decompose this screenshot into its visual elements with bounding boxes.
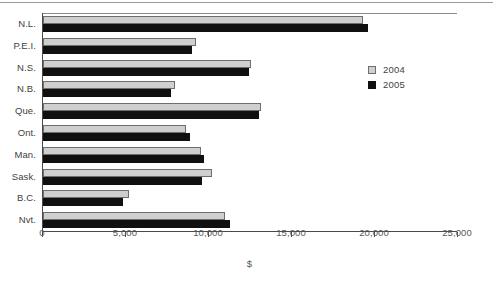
bar-2005-ns <box>43 68 249 76</box>
x-axis-tick-label: 25,000 <box>442 227 472 238</box>
legend-swatch-2005-icon <box>368 81 376 89</box>
category-label-nl: N.L. <box>0 18 36 29</box>
x-axis-tick-label: 5,000 <box>113 227 137 238</box>
bar-2005-que <box>43 111 259 119</box>
bar-2004-ns <box>43 60 251 68</box>
plot-area <box>42 13 457 231</box>
bar-2004-nvt <box>43 212 225 220</box>
bar-2004-que <box>43 103 261 111</box>
bar-2004-nb <box>43 81 175 89</box>
x-axis-tick-label: 15,000 <box>276 227 306 238</box>
bar-2004-sask <box>43 169 212 177</box>
plot-top-border <box>42 13 457 14</box>
bar-2005-nl <box>43 24 368 32</box>
bar-2005-ont <box>43 133 190 141</box>
bar-2005-sask <box>43 177 202 185</box>
bar-2004-bc <box>43 190 129 198</box>
legend-label-2005: 2005 <box>383 79 405 90</box>
category-label-sask: Sask. <box>0 171 36 182</box>
bar-2004-man <box>43 147 201 155</box>
chart-legend: 2004 2005 <box>368 62 405 92</box>
legend-item-2004: 2004 <box>368 62 405 77</box>
legend-swatch-2004-icon <box>368 66 376 74</box>
bar-2004-nl <box>43 16 363 24</box>
category-label-ont: Ont. <box>0 127 36 138</box>
category-label-pei: P.E.I. <box>0 40 36 51</box>
bar-2005-nb <box>43 89 171 97</box>
bar-2004-ont <box>43 125 186 133</box>
legend-label-2004: 2004 <box>383 64 405 75</box>
legend-item-2005: 2005 <box>368 77 405 92</box>
x-axis-tick-label: 0 <box>39 227 44 238</box>
bar-2005-bc <box>43 198 123 206</box>
x-axis-tick-label: 10,000 <box>193 227 223 238</box>
x-axis-line <box>42 231 457 232</box>
category-label-man: Man. <box>0 149 36 160</box>
bar-2005-man <box>43 155 204 163</box>
category-label-nvt: Nvt. <box>0 214 36 225</box>
bar-2005-pei <box>43 46 192 54</box>
x-axis-tick-label: 20,000 <box>359 227 389 238</box>
category-label-que: Que. <box>0 105 36 116</box>
category-label-nb: N.B. <box>0 83 36 94</box>
bar-chart-figure: 05,00010,00015,00020,00025,000 N.L.P.E.I… <box>0 0 493 284</box>
x-axis-title: $ <box>42 258 457 269</box>
category-label-bc: B.C. <box>0 192 36 203</box>
category-label-ns: N.S. <box>0 62 36 73</box>
bar-2004-pei <box>43 38 196 46</box>
top-divider-rule <box>0 2 493 3</box>
